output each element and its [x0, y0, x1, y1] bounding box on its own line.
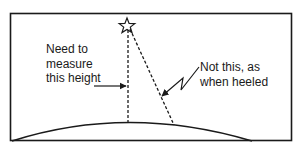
- label-line: Need to: [46, 42, 101, 57]
- label-need-to-measure: Need to measure this height: [46, 42, 101, 86]
- label-line: Not this, as: [200, 60, 268, 75]
- star-icon: [119, 18, 135, 33]
- surface-arc: [12, 123, 252, 142]
- label-line: measure: [46, 57, 101, 72]
- heeled-slant-line: [130, 29, 174, 125]
- label-line: this height: [46, 71, 101, 86]
- label-not-this-heeled: Not this, as when heeled: [200, 60, 268, 89]
- zigzag-arrow-to-slant-line: [162, 67, 199, 96]
- label-line: when heeled: [200, 75, 268, 90]
